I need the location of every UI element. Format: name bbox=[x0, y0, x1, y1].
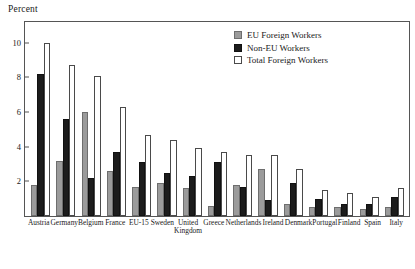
y-tick-label: 6 bbox=[17, 107, 21, 117]
x-axis-label: Greece bbox=[202, 219, 226, 236]
bar-chart: Percent 246810 EU Foreign WorkersNon-EU … bbox=[0, 0, 415, 269]
x-axis-labels: AustriaGermanyBelgiumFranceEU-15SwedenUn… bbox=[24, 219, 410, 236]
y-tick-label: 8 bbox=[17, 72, 21, 82]
bar bbox=[44, 43, 50, 216]
bar bbox=[398, 188, 404, 216]
bar bbox=[246, 155, 252, 216]
y-tick-label: 2 bbox=[17, 176, 21, 186]
bar-group bbox=[205, 22, 230, 216]
x-axis-label: Netherlands bbox=[226, 219, 262, 236]
bar-group bbox=[129, 22, 154, 216]
legend-swatch-icon bbox=[234, 31, 242, 39]
x-axis-label: Finland bbox=[337, 219, 361, 236]
bar bbox=[372, 197, 378, 216]
bar bbox=[195, 148, 201, 216]
bar-group bbox=[382, 22, 407, 216]
bar-group bbox=[53, 22, 78, 216]
x-axis-label: EU-15 bbox=[127, 219, 151, 236]
bars-area bbox=[25, 22, 409, 216]
bar-group bbox=[79, 22, 104, 216]
legend-swatch-icon bbox=[234, 44, 242, 52]
legend-item: Total Foreign Workers bbox=[234, 55, 328, 65]
x-axis-label: Italy bbox=[384, 219, 408, 236]
x-axis-label: Spain bbox=[361, 219, 385, 236]
chart-legend: EU Foreign WorkersNon-EU WorkersTotal Fo… bbox=[234, 30, 328, 65]
x-axis-label: United Kingdom bbox=[174, 219, 202, 236]
bar bbox=[271, 155, 277, 216]
bar bbox=[170, 140, 176, 216]
bar bbox=[296, 169, 302, 216]
bar-group bbox=[104, 22, 129, 216]
bar-group bbox=[28, 22, 53, 216]
bar bbox=[221, 152, 227, 216]
bar bbox=[322, 190, 328, 216]
bar bbox=[94, 76, 100, 216]
x-axis-label: Sweden bbox=[151, 219, 175, 236]
plot-area: 246810 bbox=[24, 21, 410, 217]
x-axis-label: Denmark bbox=[285, 219, 313, 236]
bar bbox=[145, 135, 151, 216]
bar bbox=[347, 193, 353, 216]
legend-item: Non-EU Workers bbox=[234, 43, 328, 53]
y-tick-label: 4 bbox=[17, 142, 21, 152]
legend-item: EU Foreign Workers bbox=[234, 30, 328, 40]
x-axis-label: Austria bbox=[27, 219, 51, 236]
x-axis-label: France bbox=[104, 219, 128, 236]
bar-group bbox=[331, 22, 356, 216]
legend-item-label: EU Foreign Workers bbox=[247, 30, 322, 40]
bar-group bbox=[180, 22, 205, 216]
y-tick-label: 10 bbox=[13, 38, 22, 48]
x-axis-label: Portugal bbox=[312, 219, 337, 236]
bar bbox=[69, 65, 75, 216]
legend-swatch-icon bbox=[234, 56, 242, 64]
bar bbox=[120, 107, 126, 216]
x-axis-label: Germany bbox=[51, 219, 79, 236]
legend-item-label: Non-EU Workers bbox=[247, 43, 310, 53]
bar-group bbox=[154, 22, 179, 216]
y-axis-title: Percent bbox=[8, 4, 38, 14]
x-axis-label: Belgium bbox=[78, 219, 103, 236]
legend-item-label: Total Foreign Workers bbox=[247, 55, 328, 65]
bar-group bbox=[356, 22, 381, 216]
x-axis-label: Ireland bbox=[261, 219, 285, 236]
